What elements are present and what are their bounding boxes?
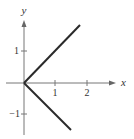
graph: 1 2 1 −1 x y (0, 0, 134, 139)
x-axis-arrow-icon (109, 81, 116, 86)
y-axis-arrow-icon (22, 20, 27, 27)
y-axis-label: y (21, 4, 27, 16)
y-tick-label-neg1: −1 (9, 108, 20, 119)
lower-branch-line (24, 83, 71, 130)
x-tick-label-1: 1 (53, 87, 58, 98)
x-tick-label-2: 2 (85, 87, 90, 98)
x-axis-label: x (120, 76, 126, 88)
y-tick-label-1: 1 (14, 45, 19, 56)
upper-branch-line (24, 25, 80, 83)
